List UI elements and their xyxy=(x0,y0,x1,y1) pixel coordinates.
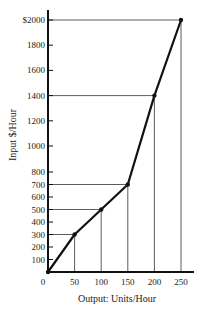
y-tick-label: 1200 xyxy=(27,116,46,126)
x-origin-label: 0 xyxy=(41,277,46,287)
y-tick-label: 200 xyxy=(32,242,46,252)
x-tick-label: 250 xyxy=(174,277,188,287)
y-tick-label: 500 xyxy=(32,205,46,215)
y-tick-label: 100 xyxy=(32,255,46,265)
data-point xyxy=(46,270,50,274)
data-point xyxy=(179,18,183,22)
x-tick-label: 200 xyxy=(148,277,162,287)
y-tick-label: 1600 xyxy=(27,65,46,75)
x-tick-label: 100 xyxy=(94,277,108,287)
data-point xyxy=(72,232,76,236)
y-tick-label: 700 xyxy=(32,180,46,190)
data-point xyxy=(152,93,156,97)
y-tick-label: 300 xyxy=(32,230,46,240)
y-tick-label: 1000 xyxy=(27,141,46,151)
y-tick-label: 1400 xyxy=(27,91,46,101)
x-ticks: 50100150200250 xyxy=(70,277,188,287)
guide-lines xyxy=(48,20,181,272)
data-points xyxy=(46,18,183,274)
data-point xyxy=(99,207,103,211)
x-tick-label: 150 xyxy=(121,277,135,287)
y-tick-label: 400 xyxy=(32,217,46,227)
y-axis-title: Input $/Hour xyxy=(7,108,18,161)
x-axis-title: Output: Units/Hour xyxy=(78,293,157,304)
data-point xyxy=(126,182,130,186)
axes xyxy=(48,10,194,272)
y-tick-label: 600 xyxy=(32,192,46,202)
y-tick-label: $2000 xyxy=(23,15,46,25)
y-tick-label: 1800 xyxy=(27,40,46,50)
y-tick-label: 800 xyxy=(32,167,46,177)
x-tick-label: 50 xyxy=(70,277,80,287)
input-output-chart: 1002003004005006007008001000120014001600… xyxy=(0,0,201,316)
